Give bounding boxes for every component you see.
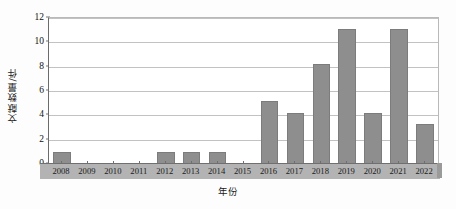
y-tick-label: 6 [39,85,44,95]
x-tick-label: 2018 [307,164,333,178]
bar-cell [308,18,334,164]
bar-2020 [364,113,382,164]
x-tick-text: 2013 [182,166,199,176]
bar-series [49,18,438,164]
bar-cell [412,18,438,164]
x-tick-text: 2012 [156,166,173,176]
bar-cell [153,18,179,164]
x-tick-mark [346,161,347,164]
bar-cell [386,18,412,164]
x-tick-label: 2019 [333,164,359,178]
axis-floor-strip-right [437,163,442,178]
x-tick-label: 2009 [74,164,100,178]
x-tick-text: 2022 [416,166,433,176]
y-axis-tick-labels: 024681012 [20,12,46,164]
x-tick-mark [268,161,269,164]
bar-2018 [313,64,331,164]
x-tick-label: 2016 [256,164,282,178]
x-axis-tick-labels: 2008200920102011201220132014201520162017… [48,164,437,178]
x-tick-mark [61,161,62,164]
bar-cell [231,18,257,164]
x-tick-mark [424,161,425,164]
y-axis-title: 文献数量/件 [6,52,20,138]
x-tick-mark [372,161,373,164]
y-tick-label: 4 [39,109,44,119]
x-tick-mark [87,161,88,164]
x-tick-text: 2021 [390,166,407,176]
bar-chart-figure: 文献数量/件 024681012 20082009201020112012201… [0,0,456,209]
x-tick-label: 2012 [152,164,178,178]
bar-2016 [261,101,279,164]
bar-2017 [287,113,305,164]
bar-2021 [390,29,408,164]
bar-2022 [416,124,434,164]
y-tick-label: 12 [35,12,45,22]
x-tick-text: 2014 [208,166,225,176]
x-tick-label: 2021 [385,164,411,178]
x-tick-mark [217,161,218,164]
x-tick-label: 2015 [230,164,256,178]
y-tick-label: 10 [35,36,45,46]
x-tick-mark [191,161,192,164]
bar-cell [179,18,205,164]
x-tick-text: 2019 [338,166,355,176]
bar-2019 [338,29,356,164]
x-tick-mark [165,161,166,164]
x-tick-mark [294,161,295,164]
x-tick-label: 2010 [100,164,126,178]
x-axis-title: 年份 [0,184,456,198]
x-tick-label: 2013 [178,164,204,178]
x-tick-label: 2017 [281,164,307,178]
x-tick-mark [139,161,140,164]
x-tick-text: 2017 [286,166,303,176]
x-tick-text: 2009 [78,166,95,176]
x-tick-text: 2015 [234,166,251,176]
x-tick-label: 2011 [126,164,152,178]
x-tick-text: 2011 [130,166,147,176]
x-tick-mark [113,161,114,164]
plot-area [48,17,439,164]
x-tick-label: 2014 [204,164,230,178]
bar-cell [127,18,153,164]
x-tick-mark [398,161,399,164]
x-tick-mark [320,161,321,164]
bar-cell [334,18,360,164]
bar-cell [49,18,75,164]
x-tick-mark [243,161,244,164]
x-tick-text: 2010 [104,166,121,176]
bar-cell [75,18,101,164]
x-tick-text: 2018 [312,166,329,176]
y-tick-label: 2 [39,134,44,144]
x-tick-label: 2008 [48,164,74,178]
x-tick-text: 2016 [260,166,277,176]
bar-cell [205,18,231,164]
bar-cell [360,18,386,164]
bar-cell [282,18,308,164]
bar-cell [257,18,283,164]
bar-cell [101,18,127,164]
x-tick-label: 2020 [359,164,385,178]
y-tick-label: 8 [39,61,44,71]
x-tick-text: 2008 [52,166,69,176]
x-tick-label: 2022 [411,164,437,178]
x-tick-text: 2020 [364,166,381,176]
